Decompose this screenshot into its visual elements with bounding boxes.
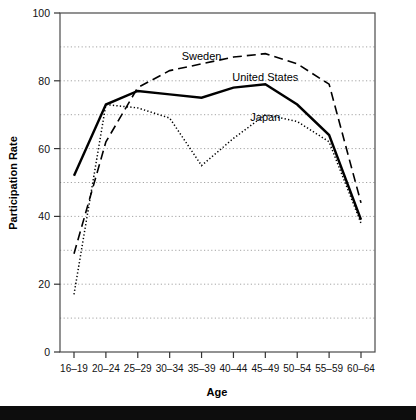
y-tick-label-20: 20: [38, 278, 50, 290]
series-label-united-states: United States: [232, 71, 299, 83]
participation-rate-line-chart: 020406080100 16–1920–2425–2930–3435–3940…: [0, 0, 416, 420]
y-tick-label-100: 100: [32, 7, 50, 19]
x-tick-label-4: 35–39: [188, 363, 216, 374]
y-tick-label-60: 60: [38, 143, 50, 155]
series-label-sweden: Sweden: [182, 50, 222, 62]
x-tick-label-6: 45–49: [251, 363, 279, 374]
x-tick-label-0: 16–19: [60, 363, 88, 374]
x-axis-title: Age: [207, 386, 228, 398]
x-tick-label-3: 30–34: [156, 363, 184, 374]
x-tick-label-9: 60–64: [347, 363, 375, 374]
x-tick-label-1: 20–24: [92, 363, 120, 374]
footer-strip: [0, 406, 416, 420]
x-tick-label-5: 40–44: [220, 363, 248, 374]
x-tick-label-7: 50–54: [283, 363, 311, 374]
series-label-japan: Japan: [250, 111, 280, 123]
y-tick-label-80: 80: [38, 75, 50, 87]
y-tick-label-0: 0: [44, 346, 50, 358]
y-tick-label-40: 40: [38, 210, 50, 222]
x-tick-label-8: 55–59: [315, 363, 343, 374]
x-tick-label-2: 25–29: [124, 363, 152, 374]
y-axis-title: Participation Rate: [7, 136, 19, 230]
